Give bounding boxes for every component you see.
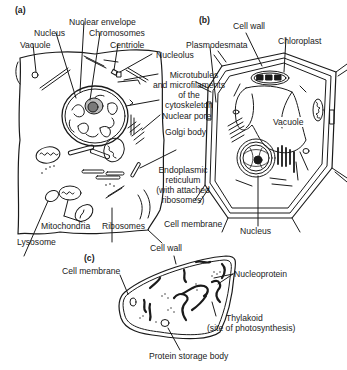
mitochondria (35, 135, 128, 224)
label-nuclear-envelope: Nuclear envelope (69, 17, 136, 27)
label-nucleoprotein: Nucleoprotein (234, 269, 287, 279)
label-nucleus-b: Nucleus (240, 226, 271, 236)
label-chromosomes: Chromosomes (89, 28, 145, 38)
label-er-4: ribosomes) (148, 195, 218, 205)
panel-label-c: (c) (84, 253, 95, 263)
label-lysosome: Lysosome (17, 237, 56, 247)
plant-nucleus (237, 139, 275, 177)
label-protein-storage-body: Protein storage body (149, 351, 228, 361)
label-cytoskeleton-3: of the (144, 90, 234, 100)
centriole (111, 69, 121, 77)
label-plasmodesmata: Plasmodesmata (186, 40, 248, 50)
animal-nucleus (62, 86, 128, 146)
label-mitochondria: Mitochondria (41, 221, 90, 231)
chloroplast (251, 71, 289, 85)
label-golgi-body: Golgi body (165, 127, 206, 137)
bacterial-cell (119, 256, 235, 350)
label-nuclear-pore: Nuclear pore (162, 111, 211, 121)
panel-label-b: (b) (199, 15, 210, 25)
label-vacuole-a: Vacuole (20, 40, 50, 50)
label-er-3: (with attached (148, 185, 218, 195)
label-er-2: reticulum (148, 175, 218, 185)
label-cytoskeleton-1: Microtubules (149, 70, 239, 80)
label-thylakoid-1: Thylakoid (226, 313, 263, 323)
thylakoid (144, 261, 225, 320)
label-cell-membrane-a: Cell membrane (164, 219, 222, 229)
label-ribosomes: Ribosomes (102, 221, 145, 231)
animal-vacuole (32, 72, 38, 78)
label-cell-wall-c: Cell wall (150, 243, 182, 253)
label-cell-membrane-c: Cell membrane (62, 266, 120, 276)
golgi-body (128, 115, 144, 144)
label-vacuole-b: Vacuole (273, 117, 303, 127)
label-cytoskeleton-4: cytoskeleton (144, 100, 234, 110)
lysosome (43, 188, 60, 204)
label-centriole: Centriole (110, 40, 144, 50)
label-thylakoid-2: (site of photosynthesis) (207, 323, 295, 333)
label-chloroplast: Chloroplast (278, 36, 321, 46)
animal-cell (16, 22, 176, 256)
label-cell-wall-b: Cell wall (233, 21, 265, 31)
panel-label-a: (a) (15, 5, 26, 15)
label-cytoskeleton-2: and microfilaments (144, 80, 234, 90)
label-er-1: Endoplasmic (148, 165, 218, 175)
label-nucleolus: Nucleolus (156, 50, 194, 60)
protein-storage-body (161, 320, 169, 327)
label-nucleus-a: Nucleus (34, 28, 65, 38)
endoplasmic-reticulum (68, 145, 150, 219)
